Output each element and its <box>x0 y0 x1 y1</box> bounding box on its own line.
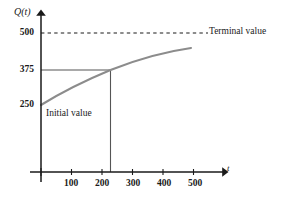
x-tick-label-100: 100 <box>57 178 85 188</box>
y-tick-label-250: 250 <box>6 99 34 109</box>
initial-value-annotation: Initial value <box>46 108 92 118</box>
x-tick-label-300: 300 <box>119 178 147 188</box>
x-tick-label-400: 400 <box>150 178 178 188</box>
terminal-value-annotation: Terminal value <box>209 26 266 36</box>
y-tick-label-375: 375 <box>6 64 34 74</box>
y-axis-label: Q(t) <box>14 6 31 17</box>
x-axis-label: t <box>227 163 230 173</box>
x-tick-label-200: 200 <box>88 178 116 188</box>
y-tick-label-500: 500 <box>6 27 34 37</box>
growth-curve <box>41 48 191 105</box>
chart-figure: Q(t) t 500 375 250 100 200 300 400 500 I… <box>0 0 286 201</box>
x-tick-label-500: 500 <box>181 178 209 188</box>
